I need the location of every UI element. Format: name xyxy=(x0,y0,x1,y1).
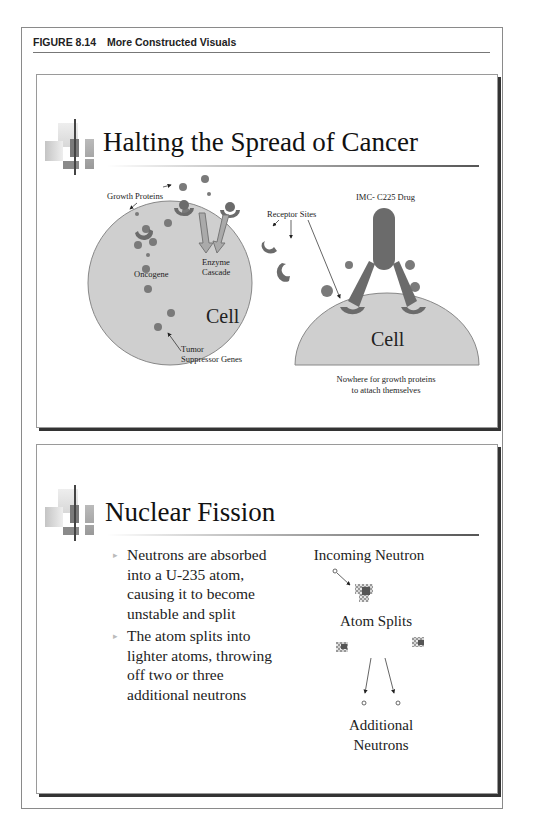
fragment-left-icon xyxy=(336,642,348,652)
svg-text:Cell: Cell xyxy=(206,305,240,327)
neutron-icon xyxy=(362,701,366,705)
svg-text:Tumor: Tumor xyxy=(181,344,204,354)
svg-text:Cascade: Cascade xyxy=(202,267,231,277)
svg-text:Suppressor Genes: Suppressor Genes xyxy=(181,354,242,364)
svg-text:Incoming Neutron: Incoming Neutron xyxy=(314,547,425,563)
svg-text:Growth Proteins: Growth Proteins xyxy=(107,191,163,201)
svg-text:Nowhere for growth proteins: Nowhere for growth proteins xyxy=(337,374,436,384)
svg-text:IMC- C225 Drug: IMC- C225 Drug xyxy=(356,192,416,202)
figure-caption: FIGURE 8.14 More Constructed Visuals xyxy=(33,36,236,48)
figure-title: More Constructed Visuals xyxy=(107,36,236,48)
svg-text:Receptor Sites: Receptor Sites xyxy=(267,209,316,219)
svg-text:to attach themselves: to attach themselves xyxy=(352,385,421,395)
slide-fission: Nuclear Fission ▸ Neutrons are absorbed … xyxy=(36,444,498,794)
cancer-diagram: Growth Proteins Receptor Sites IMC- C225… xyxy=(37,75,499,429)
neutron-icon xyxy=(396,701,400,705)
fragment-right-icon xyxy=(412,637,424,647)
svg-text:Atom Splits: Atom Splits xyxy=(340,613,412,629)
svg-text:Enzyme: Enzyme xyxy=(202,257,230,267)
fission-diagram: Incoming Neutron Atom Splits Additional … xyxy=(37,445,499,795)
svg-text:Oncogene: Oncogene xyxy=(134,269,169,279)
slide-cancer: Halting the Spread of Cancer xyxy=(36,74,498,428)
svg-text:Neutrons: Neutrons xyxy=(354,737,409,753)
figure-number: FIGURE 8.14 xyxy=(33,36,96,48)
svg-text:Cell: Cell xyxy=(371,328,405,350)
svg-text:Additional: Additional xyxy=(349,717,413,733)
nucleus-icon xyxy=(355,584,373,602)
neutron-icon xyxy=(333,569,337,573)
caption-divider xyxy=(33,52,490,53)
